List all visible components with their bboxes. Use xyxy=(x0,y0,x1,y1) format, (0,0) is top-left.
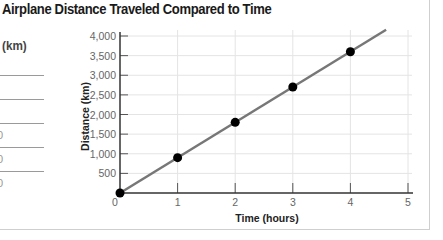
y-tick-label: 3,000 xyxy=(90,69,116,81)
data-point xyxy=(346,47,355,56)
data-point xyxy=(116,189,125,198)
x-tick-label: 1 xyxy=(175,196,181,208)
data-point xyxy=(231,118,240,127)
x-tick-label: 4 xyxy=(347,196,353,208)
x-tick-label: 0 xyxy=(112,196,118,208)
y-tick-label: 3,500 xyxy=(90,50,116,62)
y-tick-label: 500 xyxy=(98,167,116,179)
frame-border-right xyxy=(429,0,430,229)
y-tick-label: 1,000 xyxy=(90,148,116,160)
line-chart: 5001,0001,5002,0002,5003,0003,5004,00001… xyxy=(0,0,443,240)
x-tick-label: 5 xyxy=(405,196,411,208)
frame-border-bottom xyxy=(0,229,430,230)
y-tick-label: 1,500 xyxy=(90,128,116,140)
y-axis-label: Distance (km) xyxy=(79,82,91,151)
y-tick-label: 2,000 xyxy=(90,109,116,121)
y-tick-label: 4,000 xyxy=(90,30,116,42)
x-axis-label: Time (hours) xyxy=(235,212,298,224)
x-tick-label: 3 xyxy=(290,196,296,208)
trend-line xyxy=(120,30,386,193)
y-tick-label: 2,500 xyxy=(90,89,116,101)
data-point xyxy=(288,83,297,92)
data-point xyxy=(173,153,182,162)
x-tick-label: 2 xyxy=(232,196,238,208)
